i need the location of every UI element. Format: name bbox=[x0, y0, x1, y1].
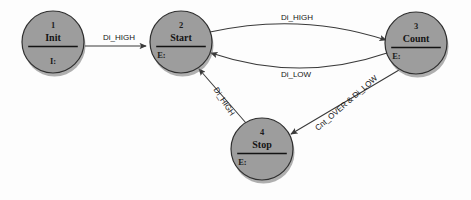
transition-label-init-to-start: Di_HIGH bbox=[103, 33, 135, 42]
state-diagram: 1InitI:2StartE:3CountE:4StopE: Di_HIGHDi… bbox=[0, 0, 471, 200]
transition-label-group-stop-to-start: Di_HIGH bbox=[212, 86, 237, 118]
state-action-stop: E: bbox=[238, 157, 247, 167]
state-node-init[interactable]: 1InitI: bbox=[22, 11, 86, 77]
transition-label-group-count-to-start: Di_LOW bbox=[281, 70, 312, 79]
state-name-start: Start bbox=[170, 32, 192, 43]
state-node-count[interactable]: 3CountE: bbox=[385, 12, 449, 78]
state-name-count: Count bbox=[403, 33, 430, 44]
state-name-stop: Stop bbox=[252, 139, 272, 150]
transition-edge-count-to-start bbox=[211, 53, 387, 68]
transition-label-count-to-start: Di_LOW bbox=[281, 70, 312, 79]
transition-label-group-start-to-count: Di_HIGH bbox=[281, 13, 313, 22]
state-name-init: Init bbox=[45, 32, 61, 43]
transition-label-group-count-to-stop: Cnt_OVER & Di_LOW bbox=[313, 73, 379, 132]
state-action-start: E: bbox=[157, 50, 166, 60]
transition-label-stop-to-start: Di_HIGH bbox=[212, 86, 237, 118]
state-node-stop[interactable]: 4StopE: bbox=[231, 118, 295, 184]
state-number-init: 1 bbox=[51, 20, 55, 30]
transition-label-group-init-to-start: Di_HIGH bbox=[103, 33, 135, 42]
state-action-init: I: bbox=[50, 56, 56, 66]
transition-label-start-to-count: Di_HIGH bbox=[281, 13, 313, 22]
transition-label-count-to-stop: Cnt_OVER & Di_LOW bbox=[313, 73, 379, 132]
transition-labels-layer: Di_HIGHDi_HIGHDi_LOWCnt_OVER & Di_LOWDi_… bbox=[103, 13, 380, 133]
state-number-count: 3 bbox=[414, 21, 418, 31]
state-action-count: E: bbox=[392, 51, 401, 61]
state-number-start: 2 bbox=[179, 20, 183, 30]
transition-edge-start-to-count bbox=[210, 24, 386, 40]
state-node-start[interactable]: 2StartE: bbox=[150, 11, 214, 77]
states-layer: 1InitI:2StartE:3CountE:4StopE: bbox=[22, 11, 449, 184]
diagram-canvas: 1InitI:2StartE:3CountE:4StopE: Di_HIGHDi… bbox=[0, 0, 471, 200]
